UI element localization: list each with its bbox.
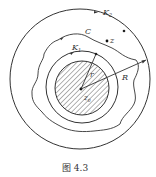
figure-caption: 图 4.3 — [62, 163, 88, 173]
label-z: z — [109, 36, 115, 45]
label-k2: K2 — [102, 8, 112, 18]
laurent-annulus-diagram: K2 C K1 z r R z0 图 4.3 — [0, 0, 156, 177]
label-R: R — [121, 73, 128, 82]
k2-point-dot — [123, 30, 126, 33]
radius-R-arrowhead-icon — [142, 60, 147, 63]
hatched-disk — [55, 61, 109, 115]
point-z-dot — [106, 40, 109, 43]
k1-point-dot — [95, 53, 98, 56]
label-r: r — [90, 70, 94, 79]
label-k1: K1 — [71, 43, 81, 53]
label-c: C — [85, 27, 91, 36]
